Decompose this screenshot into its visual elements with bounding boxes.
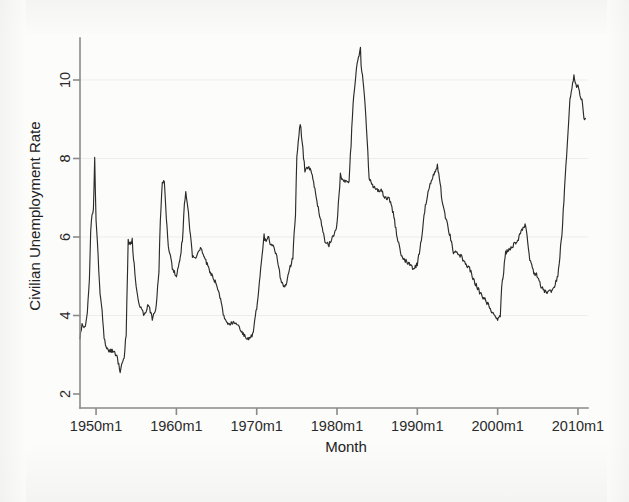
y-axis-group: 246810 [57,72,80,398]
y-axis-tick-label: 10 [57,72,73,88]
chart-page: 246810 1950m11960m11970m11980m11990m1200… [0,0,629,502]
chart-canvas: 246810 1950m11960m11970m11980m11990m1200… [0,0,629,502]
y-axis-tick-label: 8 [57,154,73,162]
unemployment-line-chart: 246810 1950m11960m11970m11980m11990m1200… [0,0,629,502]
y-axis-tick-label: 6 [57,233,73,241]
x-axis-group: 1950m11960m11970m11980m11990m12000m12010… [70,408,604,434]
x-axis-tick-label: 2000m1 [471,418,523,434]
x-axis-tick-label: 1990m1 [391,418,443,434]
x-axis-title: Month [325,438,367,455]
y-axis-tick-label: 2 [57,390,73,398]
x-axis-tick-label: 1950m1 [70,418,122,434]
x-axis-tick-label: 1980m1 [311,418,363,434]
series-line-civilian-unemployment-rate [80,47,585,372]
x-axis-tick-label: 2010m1 [552,418,604,434]
y-axis-tick-label: 4 [57,311,73,319]
gridlines [80,80,588,316]
x-axis-tick-label: 1960m1 [150,418,202,434]
x-axis-tick-label: 1970m1 [230,418,282,434]
y-axis-title: Civilian Unemployment Rate [26,121,43,310]
